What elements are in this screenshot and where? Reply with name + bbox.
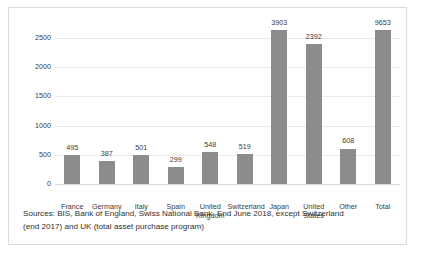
plot-area: 05001000150020002500 4953875012995485193… — [9, 8, 408, 200]
bar-group[interactable]: 9653 — [366, 8, 401, 200]
bar-value-label: 3903 — [271, 19, 287, 26]
bar-value-label: 495 — [66, 144, 78, 151]
bar[interactable] — [133, 155, 149, 184]
bar[interactable] — [237, 154, 253, 184]
bar[interactable] — [99, 161, 115, 184]
bar[interactable] — [64, 155, 80, 184]
y-tick-label: 0 — [17, 180, 51, 187]
bar[interactable] — [271, 30, 287, 184]
bar-series: 495387501299548519390323926089653 — [55, 8, 400, 200]
source-note: Sources: BIS, Bank of England, Swiss Nat… — [23, 208, 383, 233]
bar-value-label: 2392 — [306, 33, 322, 40]
y-tick-label: 1000 — [17, 122, 51, 129]
bar-value-label: 519 — [239, 143, 251, 150]
bar[interactable] — [340, 149, 356, 185]
bar[interactable] — [202, 152, 218, 184]
bar-value-label: 548 — [204, 141, 216, 148]
source-line-1: Sources: BIS, Bank of England, Swiss Nat… — [23, 208, 383, 221]
bar-group[interactable]: 519 — [228, 8, 263, 200]
bar-group[interactable]: 387 — [90, 8, 125, 200]
bar[interactable] — [168, 167, 184, 184]
bar-group[interactable]: 299 — [159, 8, 194, 200]
bar-group[interactable]: 2392 — [297, 8, 332, 200]
bar-value-label: 501 — [135, 144, 147, 151]
bar-value-label: 9653 — [375, 19, 391, 26]
bar-value-label: 608 — [342, 137, 354, 144]
bar-group[interactable]: 495 — [55, 8, 90, 200]
source-line-2: (end 2017) and UK (total asset purchase … — [23, 221, 383, 234]
bar-group[interactable]: 3903 — [262, 8, 297, 200]
chart-figure: 05001000150020002500 4953875012995485193… — [8, 7, 407, 245]
bar[interactable] — [375, 30, 391, 184]
bar-group[interactable]: 548 — [193, 8, 228, 200]
y-axis: 05001000150020002500 — [17, 8, 51, 200]
bar-group[interactable]: 501 — [124, 8, 159, 200]
y-tick-label: 500 — [17, 151, 51, 158]
bar-value-label: 387 — [101, 150, 113, 157]
y-tick-label: 2000 — [17, 64, 51, 71]
bar[interactable] — [306, 44, 322, 184]
y-tick-label: 1500 — [17, 93, 51, 100]
y-tick-label: 2500 — [17, 34, 51, 41]
bar-group[interactable]: 608 — [331, 8, 366, 200]
bar-value-label: 299 — [170, 156, 182, 163]
